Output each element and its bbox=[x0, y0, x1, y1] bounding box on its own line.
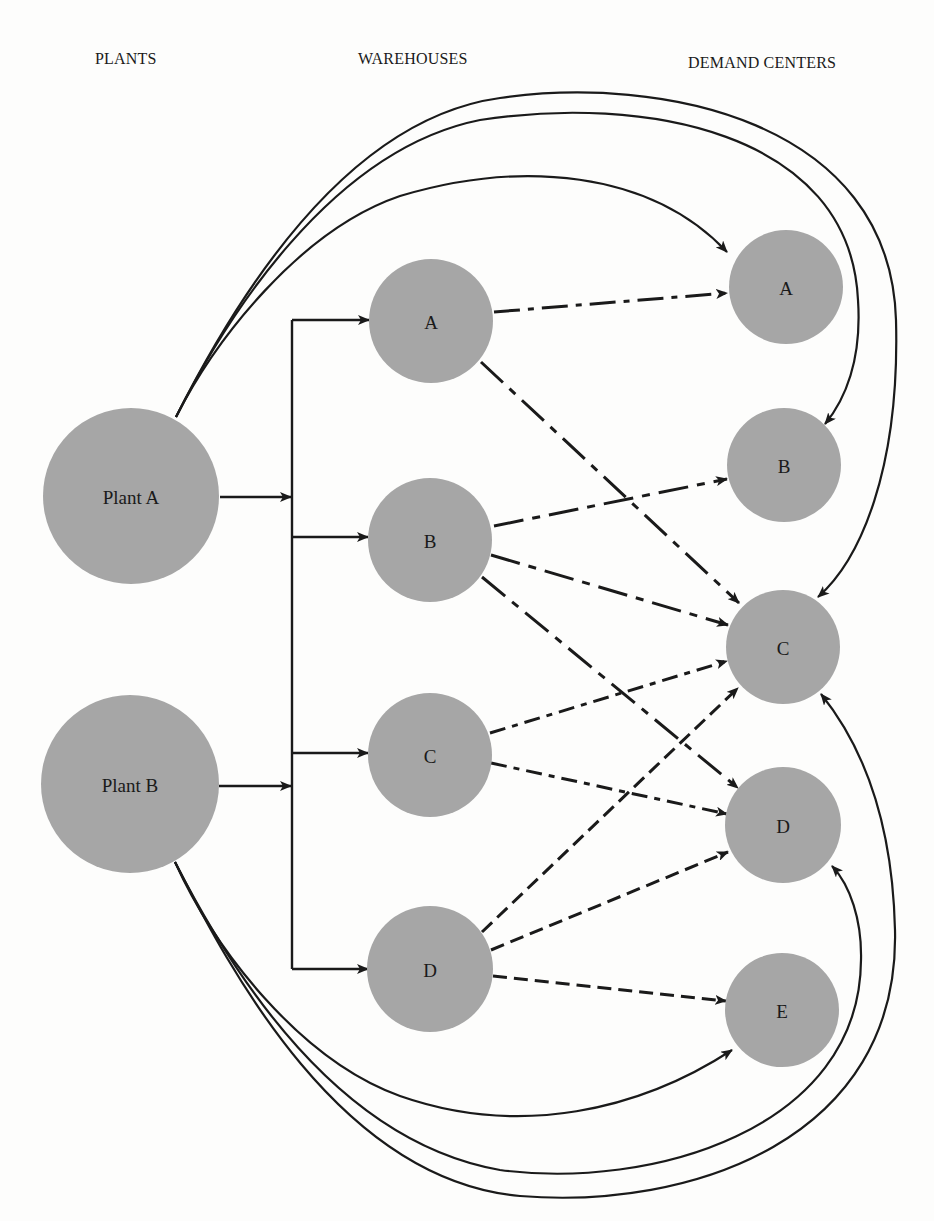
distribution-network-diagram: Plant APlant BABCDABCDE bbox=[0, 0, 934, 1221]
shipment-wc-to-dd bbox=[491, 763, 727, 814]
shipment-wd-to-dd bbox=[491, 852, 728, 950]
shipment-wb-to-db bbox=[494, 479, 727, 526]
shipment-wb-to-dd bbox=[482, 577, 738, 788]
warehouse-label: D bbox=[423, 960, 437, 981]
plant-label: Plant B bbox=[102, 775, 158, 796]
demand-center-node-c: C bbox=[726, 590, 840, 704]
plant-label: Plant A bbox=[103, 487, 160, 508]
warehouse-node-a: A bbox=[369, 259, 493, 383]
warehouse-node-b: B bbox=[368, 478, 492, 602]
warehouse-label: B bbox=[424, 531, 437, 552]
node-layer: Plant APlant BABCDABCDE bbox=[41, 230, 843, 1067]
demand-center-node-b: B bbox=[727, 408, 841, 522]
warehouse-label: A bbox=[424, 312, 438, 333]
shipment-wd-to-dc bbox=[482, 688, 738, 932]
demand-center-label: D bbox=[776, 816, 790, 837]
shipment-wd-to-de bbox=[493, 976, 726, 1001]
warehouse-label: C bbox=[424, 746, 437, 767]
demand-center-node-a: A bbox=[729, 230, 843, 344]
warehouse-shipment-lines bbox=[481, 293, 739, 1001]
demand-center-label: C bbox=[777, 638, 790, 659]
demand-center-node-e: E bbox=[725, 953, 839, 1067]
shipment-wa-to-da bbox=[494, 293, 727, 312]
shipment-wc-to-dc bbox=[490, 661, 727, 733]
demand-center-label: E bbox=[776, 1001, 788, 1022]
demand-center-label: A bbox=[779, 278, 793, 299]
warehouse-node-d: D bbox=[367, 906, 493, 1032]
plant-warehouse-bus bbox=[219, 320, 369, 969]
warehouse-node-c: C bbox=[368, 693, 492, 817]
demand-center-node-d: D bbox=[725, 767, 841, 883]
plant-node-plant-a: Plant A bbox=[43, 408, 219, 584]
plant-node-plant-b: Plant B bbox=[41, 695, 219, 873]
shipment-wa-to-dc bbox=[481, 362, 739, 603]
demand-center-label: B bbox=[778, 456, 791, 477]
